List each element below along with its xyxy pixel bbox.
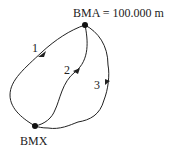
benchmark-bma-dot xyxy=(82,22,88,28)
route-2-label: 2 xyxy=(64,63,70,77)
route-1-path xyxy=(10,25,85,126)
bmx-label: BMX xyxy=(20,134,48,148)
route-1-label: 1 xyxy=(32,41,38,55)
leveling-loop-diagram: BMA = 100.000 m BMX 1 2 3 xyxy=(0,0,169,152)
route-3-arrow xyxy=(105,79,110,85)
bma-label: BMA = 100.000 m xyxy=(73,6,164,20)
benchmark-bmx-dot xyxy=(32,123,38,129)
route-3-label: 3 xyxy=(94,78,100,92)
route-3-path xyxy=(35,25,109,128)
route-2-path xyxy=(35,25,87,126)
